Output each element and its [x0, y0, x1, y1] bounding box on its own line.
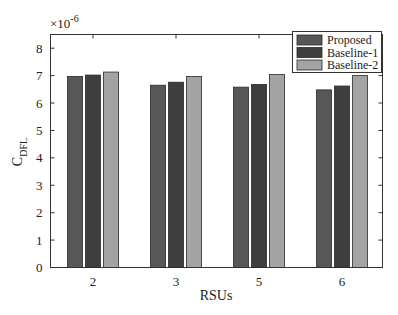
- legend-label: Baseline-2: [327, 58, 378, 72]
- x-tick-label: 5: [256, 274, 263, 289]
- x-axis-label: RSUs: [200, 288, 233, 303]
- y-tick-label: 6: [36, 96, 43, 111]
- bar-baseline-2: [187, 76, 202, 267]
- y-tick-label: 4: [36, 150, 43, 165]
- y-axis-label: CDFL: [10, 138, 29, 166]
- bar-baseline-1: [335, 86, 350, 267]
- bar-baseline-2: [104, 72, 119, 267]
- bar-proposed: [234, 87, 249, 267]
- bar-baseline-2: [270, 75, 285, 268]
- y-tick-label: 5: [36, 123, 43, 138]
- y-tick-label: 8: [36, 41, 43, 56]
- x-tick-label: 3: [173, 274, 180, 289]
- bar-proposed: [317, 90, 332, 268]
- bar-baseline-1: [169, 82, 184, 267]
- legend-swatch: [297, 35, 322, 45]
- x-tick-label: 6: [339, 274, 346, 289]
- legend: ProposedBaseline-1Baseline-2: [293, 32, 382, 73]
- bar-proposed: [68, 76, 83, 267]
- y-tick-label: 3: [36, 178, 43, 193]
- bar-baseline-1: [86, 75, 101, 267]
- bar-chart: 012345678 2356 ×10-6 CDFL RSUs ProposedB…: [0, 0, 398, 315]
- bar-proposed: [151, 85, 166, 267]
- y-tick-label: 2: [36, 205, 43, 220]
- legend-swatch: [297, 60, 322, 70]
- legend-swatch: [297, 48, 322, 58]
- y-tick-label: 1: [36, 233, 43, 248]
- y-tick-label: 7: [36, 68, 43, 83]
- y-tick-label: 0: [36, 260, 43, 275]
- bar-baseline-1: [252, 84, 267, 267]
- y-exponent-label: ×10-6: [50, 13, 79, 31]
- x-tick-label: 2: [90, 274, 97, 289]
- bar-baseline-2: [353, 76, 368, 268]
